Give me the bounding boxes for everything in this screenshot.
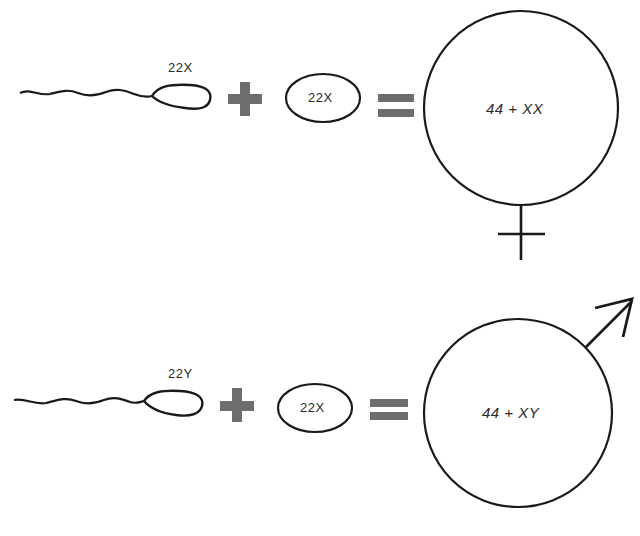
male-symbol-icon (424, 299, 632, 507)
sperm-icon (14, 391, 202, 416)
female-symbol-icon (424, 11, 618, 260)
plus-icon (220, 388, 254, 422)
equals-icon (370, 399, 408, 420)
sperm-label: 22Y (168, 366, 193, 381)
sperm-label: 22X (168, 60, 193, 75)
equals-icon (378, 94, 414, 117)
plus-icon (228, 82, 262, 116)
egg-label: 22X (300, 400, 325, 415)
diagram-canvas (0, 0, 640, 536)
sperm-icon (20, 85, 210, 109)
result-genotype-label: 44 + XX (486, 100, 543, 117)
egg-label: 22X (308, 90, 333, 105)
result-genotype-label: 44 + XY (482, 404, 539, 421)
